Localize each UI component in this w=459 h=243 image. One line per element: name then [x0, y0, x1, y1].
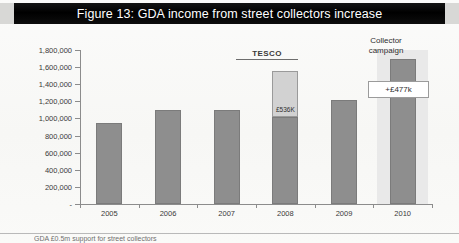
delta-callout-box: +£477k: [368, 81, 429, 98]
y-tick-mark: [75, 118, 80, 119]
footer-divider: [0, 233, 459, 234]
figure-title: Figure 13: GDA income from street collec…: [77, 7, 382, 21]
x-tick-label-2007: 2007: [198, 209, 256, 218]
y-tick-label: 1,400,000: [14, 80, 72, 89]
y-tick-mark: [75, 187, 80, 188]
bar-stack-top-2008: £536K: [272, 71, 298, 117]
figure-title-bar: Figure 13: GDA income from street collec…: [14, 3, 445, 24]
y-tick-mark: [75, 50, 80, 51]
bar-2007: [214, 110, 240, 204]
y-tick-mark: [75, 84, 80, 85]
plot-area: £536K: [80, 50, 432, 204]
x-tick-mark: [315, 204, 316, 208]
x-tick-mark: [373, 204, 374, 208]
y-tick-label: 800,000: [14, 131, 72, 140]
bar-2008: [272, 117, 298, 204]
figure-page: Figure 13: GDA income from street collec…: [0, 0, 459, 243]
bar-2009: [331, 100, 357, 204]
y-tick-mark: [75, 101, 80, 102]
footer-caption: GDA £0.5m support for street collectors: [34, 235, 157, 243]
campaign-label-line2: campaign: [352, 46, 420, 56]
bar-2005: [96, 123, 122, 204]
y-tick-label: 400,000: [14, 165, 72, 174]
scan-edge-left: [0, 3, 14, 24]
x-tick-mark: [256, 204, 257, 208]
tesco-annotation: TESCO: [236, 49, 298, 60]
bar-2006: [155, 110, 181, 204]
campaign-label-line1: Collector: [352, 36, 420, 46]
collector-campaign-annotation: Collector campaign: [352, 36, 420, 55]
x-tick-label-2005: 2005: [80, 209, 138, 218]
scan-edge-right: [445, 3, 459, 24]
x-tick-mark: [139, 204, 140, 208]
y-tick-mark: [75, 67, 80, 68]
x-tick-label-2008: 2008: [256, 209, 314, 218]
x-tick-mark: [432, 204, 433, 208]
y-tick-label: 600,000: [14, 148, 72, 157]
y-axis-labels: -200,000400,000600,000800,0001,000,0001,…: [14, 0, 72, 243]
x-tick-label-2006: 2006: [139, 209, 197, 218]
y-tick-label: 1,600,000: [14, 63, 72, 72]
y-tick-label: 1,200,000: [14, 97, 72, 106]
y-tick-label: 200,000: [14, 182, 72, 191]
y-tick-label: 1,000,000: [14, 114, 72, 123]
x-tick-mark: [197, 204, 198, 208]
y-tick-mark: [75, 153, 80, 154]
x-tick-label-2010: 2010: [374, 209, 432, 218]
y-tick-mark: [75, 136, 80, 137]
x-tick-mark: [80, 204, 81, 208]
y-tick-label: -: [14, 200, 72, 209]
y-tick-mark: [75, 170, 80, 171]
y-tick-label: 1,800,000: [14, 46, 72, 55]
stack-segment-label: £536K: [273, 106, 297, 113]
x-tick-label-2009: 2009: [315, 209, 373, 218]
